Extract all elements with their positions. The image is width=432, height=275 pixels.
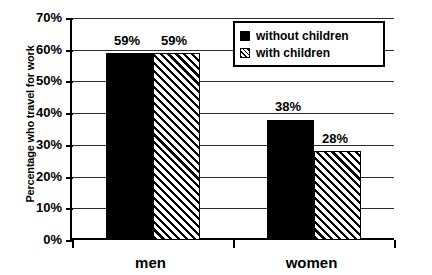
bar-value-label: 59% [145, 34, 204, 47]
y-axis-tick-label: 20% [18, 170, 62, 183]
y-axis-tick-label: 10% [18, 201, 62, 214]
legend-item: without children [240, 27, 378, 44]
y-axis-tick-label: 0% [18, 233, 62, 246]
y-axis-tick-mark [66, 177, 73, 179]
bar [314, 151, 361, 240]
x-axis-tick-mark [394, 240, 396, 248]
y-axis-tick-mark [66, 18, 73, 20]
bar [153, 53, 200, 240]
x-axis-tick-mark [72, 240, 74, 248]
x-axis-category-label: women [231, 255, 392, 270]
y-axis-tick-label: 30% [18, 138, 62, 151]
bar-value-label: 28% [306, 132, 365, 145]
y-axis-tick-label: 40% [18, 106, 62, 119]
x-axis-tick-mark [233, 240, 235, 248]
legend-hatched-swatch-icon [240, 48, 250, 58]
legend-solid-swatch-icon [240, 31, 250, 41]
legend-item-label: without children [256, 29, 349, 43]
gridline [72, 18, 394, 19]
y-axis-tick-mark [66, 208, 73, 210]
y-axis-tick-mark [66, 113, 73, 115]
y-axis-tick-mark [66, 81, 73, 83]
bar-value-label: 38% [259, 100, 318, 113]
legend-item: with children [240, 44, 378, 61]
bar [106, 53, 153, 240]
y-axis-tick-label: 50% [18, 74, 62, 87]
y-axis-tick-labels: 0%10%20%30%40%50%60%70% [14, 0, 62, 275]
y-axis-tick-label: 60% [18, 43, 62, 56]
x-axis-category-label: men [70, 255, 231, 270]
chart-legend: without childrenwith children [233, 21, 385, 67]
y-axis-tick-mark [66, 145, 73, 147]
y-axis-tick-mark [66, 50, 73, 52]
y-axis-tick-label: 70% [18, 11, 62, 24]
legend-item-label: with children [256, 46, 330, 60]
bar-chart: Percentage who travel for work 0%10%20%3… [0, 0, 432, 275]
